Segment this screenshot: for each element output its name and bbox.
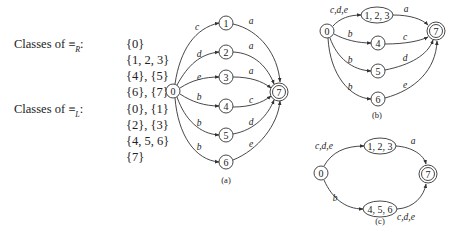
edge-label: b bbox=[348, 55, 353, 65]
diagram-a: cdebbbaaacde01234567(a) bbox=[166, 16, 288, 185]
edge-label: b bbox=[197, 118, 202, 128]
edge-label: d bbox=[197, 49, 202, 59]
transition-edge bbox=[397, 184, 426, 209]
state-node: 4 bbox=[219, 99, 233, 113]
edge-label: b bbox=[348, 82, 353, 92]
state-label: 1, 2, 3 bbox=[368, 141, 393, 152]
edge-label: a bbox=[249, 41, 254, 51]
accepting-state: 7 bbox=[419, 165, 437, 183]
diagram-caption: (a) bbox=[221, 175, 231, 185]
diagram-caption: (c) bbox=[375, 216, 385, 226]
transition-edge bbox=[324, 180, 363, 209]
diagram-caption: (b) bbox=[372, 110, 382, 120]
state-node: 2 bbox=[219, 45, 233, 59]
state-node: 5 bbox=[219, 128, 233, 142]
state-node: 6 bbox=[371, 92, 385, 106]
state-label: 0 bbox=[171, 86, 176, 97]
transition-edge bbox=[393, 15, 428, 25]
accepting-state: 7 bbox=[427, 22, 445, 40]
state-node: 0 bbox=[166, 84, 180, 98]
state-label: 2 bbox=[224, 47, 229, 58]
transition-edge bbox=[334, 34, 371, 43]
transition-edge bbox=[385, 40, 433, 70]
transition-edge bbox=[396, 146, 426, 164]
state-label: 5 bbox=[376, 66, 381, 77]
state-label: 7 bbox=[434, 26, 439, 37]
state-node: 5 bbox=[371, 64, 385, 78]
transition-edge bbox=[385, 41, 437, 98]
state-node: 0 bbox=[320, 24, 334, 38]
state-node: 1, 2, 3 bbox=[361, 7, 393, 23]
state-label: 0 bbox=[319, 168, 324, 179]
edge-label: a bbox=[404, 4, 409, 14]
state-label: 6 bbox=[376, 94, 381, 105]
state-label: 7 bbox=[277, 87, 282, 98]
transition-edge bbox=[233, 77, 271, 88]
edge-label: d bbox=[249, 117, 254, 127]
state-label: 4 bbox=[224, 101, 229, 112]
edge-label: c,d,e bbox=[330, 5, 348, 15]
state-label: 6 bbox=[224, 157, 229, 168]
state-node: 1 bbox=[219, 16, 233, 30]
edge-label: b bbox=[333, 193, 338, 203]
accepting-state: 7 bbox=[270, 83, 288, 101]
state-label: 7 bbox=[426, 169, 431, 180]
state-node: 6 bbox=[219, 155, 233, 169]
edge-label: c,d,e bbox=[397, 212, 415, 222]
diagram-c: c,d,ebac,d,e01, 2, 34, 5, 67(c) bbox=[314, 136, 437, 226]
edge-label: e bbox=[197, 72, 201, 82]
edge-label: b bbox=[348, 29, 353, 39]
automata-diagrams: cdebbbaaacde01234567(a) c,d,ebbbacde01, … bbox=[0, 0, 460, 235]
edge-label: e bbox=[403, 80, 407, 90]
edge-label: c bbox=[403, 32, 408, 42]
state-label: 0 bbox=[325, 26, 330, 37]
edge-label: e bbox=[249, 139, 253, 149]
transition-edge bbox=[233, 101, 280, 160]
state-label: 1 bbox=[224, 18, 229, 29]
state-node: 3 bbox=[219, 70, 233, 84]
state-label: 1, 2, 3 bbox=[365, 10, 390, 21]
transition-edge bbox=[333, 15, 361, 26]
edge-label: a bbox=[249, 16, 254, 26]
state-node: 0 bbox=[314, 166, 328, 180]
edge-label: c bbox=[195, 22, 200, 32]
state-label: 4, 5, 6 bbox=[368, 204, 393, 215]
edge-label: c bbox=[249, 95, 254, 105]
diagram-b: c,d,ebbbacde01, 2, 34567(b) bbox=[320, 4, 445, 120]
state-label: 3 bbox=[224, 72, 229, 83]
edge-label: a bbox=[249, 66, 254, 76]
edge-label: c,d,e bbox=[315, 141, 333, 151]
edge-label: b bbox=[197, 92, 202, 102]
state-node: 4 bbox=[371, 36, 385, 50]
state-label: 5 bbox=[224, 130, 229, 141]
state-node: 4, 5, 6 bbox=[363, 201, 397, 217]
edge-label: b bbox=[197, 142, 202, 152]
state-label: 4 bbox=[376, 38, 381, 49]
state-node: 1, 2, 3 bbox=[364, 138, 396, 154]
transition-edge bbox=[233, 100, 274, 134]
edge-label: a bbox=[411, 136, 416, 146]
edge-label: d bbox=[403, 53, 408, 63]
